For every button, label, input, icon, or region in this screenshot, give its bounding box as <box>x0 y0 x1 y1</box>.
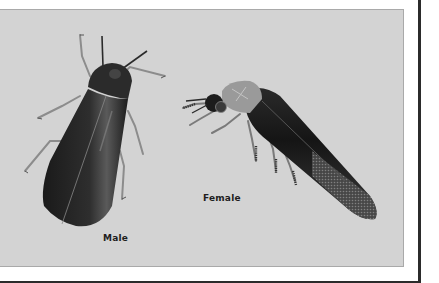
frame-right-border <box>418 0 421 283</box>
male-beetle <box>25 35 165 226</box>
female-label: Female <box>203 193 241 203</box>
beetle-illustration <box>0 10 403 266</box>
illustration-panel: Male Female <box>0 9 404 267</box>
male-label: Male <box>103 233 128 243</box>
